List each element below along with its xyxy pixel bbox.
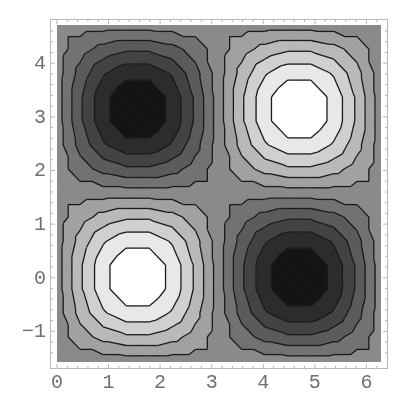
y-tick-label: 2 (34, 161, 46, 181)
x-tick-label: 0 (51, 373, 63, 393)
contour-plot: 0123456 −101234 (0, 0, 408, 412)
x-tick-label: 4 (257, 373, 269, 393)
axis-ticks (0, 0, 408, 412)
x-tick-label: 5 (309, 373, 321, 393)
y-tick-label: 1 (34, 215, 46, 235)
y-tick-label: 3 (34, 108, 46, 128)
x-tick-label: 2 (154, 373, 166, 393)
x-tick-label: 6 (360, 373, 372, 393)
x-tick-label: 1 (103, 373, 115, 393)
y-tick-label: 4 (34, 54, 46, 74)
x-tick-label: 3 (206, 373, 218, 393)
y-tick-label: −1 (22, 322, 46, 342)
y-tick-label: 0 (34, 269, 46, 289)
